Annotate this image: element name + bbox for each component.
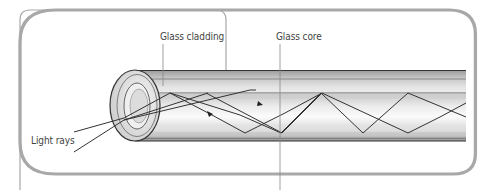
fiber-diagram	[0, 0, 480, 193]
cladding-label: Glass cladding	[160, 31, 224, 42]
core-label: Glass core	[276, 31, 322, 42]
rays-label: Light rays	[31, 135, 75, 146]
